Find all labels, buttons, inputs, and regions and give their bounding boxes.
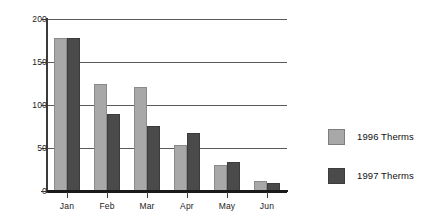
legend-item: 1997 Therms xyxy=(328,167,432,185)
legend-label: 1997 Therms xyxy=(357,170,414,181)
x-tick-label: May xyxy=(207,201,247,211)
legend-label: 1996 Therms xyxy=(357,131,414,142)
x-tick-label: Feb xyxy=(87,201,127,211)
legend-swatch-icon xyxy=(328,168,345,184)
chart-legend: 1996 Therms1997 Therms xyxy=(328,128,432,206)
x-tick-mark xyxy=(227,192,228,198)
x-tick-label: Mar xyxy=(127,201,167,211)
legend-swatch-icon xyxy=(328,129,345,145)
x-tick-mark xyxy=(187,192,188,198)
x-tick-mark xyxy=(67,192,68,198)
x-tick-label: Jun xyxy=(247,201,287,211)
x-tick-mark xyxy=(267,192,268,198)
x-tick-label: Jan xyxy=(47,201,87,211)
bar-chart-figure: 200150100500 JanFebMarAprMayJun 1996 The… xyxy=(0,0,434,224)
x-tick-mark xyxy=(147,192,148,198)
legend-item: 1996 Therms xyxy=(328,128,432,146)
x-tick-mark xyxy=(107,192,108,198)
x-tick-label: Apr xyxy=(167,201,207,211)
